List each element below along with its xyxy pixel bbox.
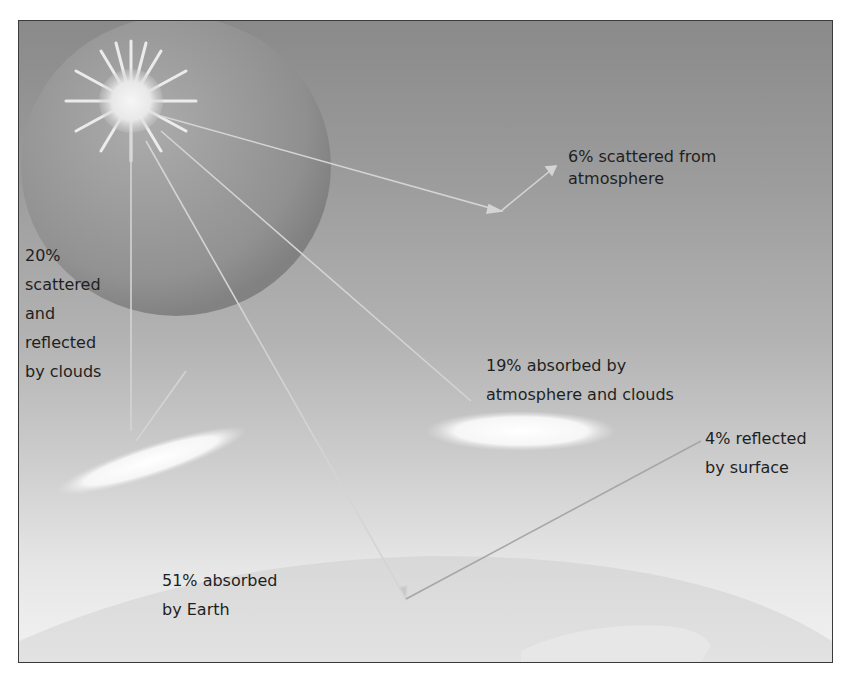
label-reflected-clouds: 20% scattered and reflected by clouds: [25, 241, 101, 386]
label-line: 19% absorbed by: [486, 351, 674, 380]
label-line: 51% absorbed: [162, 566, 277, 595]
label-line: 4% reflected: [705, 424, 807, 453]
label-reflected-surface: 4% reflected by surface: [705, 424, 807, 482]
diagram-graphics: [19, 21, 832, 662]
label-line: by clouds: [25, 357, 101, 386]
label-line: and: [25, 299, 101, 328]
diagram-frame: 6% scattered from atmosphere 20% scatter…: [18, 20, 833, 663]
label-line: atmosphere: [568, 168, 716, 190]
cloud-icon: [51, 411, 616, 507]
label-line: by Earth: [162, 595, 277, 624]
label-line: scattered: [25, 270, 101, 299]
label-line: 20%: [25, 241, 101, 270]
earth-surface-icon: [19, 556, 832, 662]
label-line: by surface: [705, 453, 807, 482]
label-line: 6% scattered from: [568, 146, 716, 168]
label-line: reflected: [25, 328, 101, 357]
label-scattered-atmosphere: 6% scattered from atmosphere: [568, 146, 716, 190]
label-absorbed-earth: 51% absorbed by Earth: [162, 566, 277, 624]
label-line: atmosphere and clouds: [486, 380, 674, 409]
label-absorbed-atmosphere: 19% absorbed by atmosphere and clouds: [486, 351, 674, 409]
